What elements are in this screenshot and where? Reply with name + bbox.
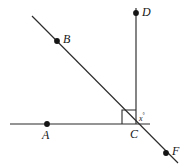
right-angle-marker <box>122 110 136 124</box>
point-label-C: C <box>130 128 138 140</box>
point-label-A: A <box>42 129 49 141</box>
geometry-figure: A B C D F x° <box>0 0 188 168</box>
diagonal-line <box>32 16 178 163</box>
point-label-B: B <box>63 33 70 45</box>
point-dot-F <box>163 150 169 156</box>
point-dot-D <box>133 10 139 16</box>
point-label-F: F <box>172 145 179 157</box>
figure-canvas <box>0 0 188 168</box>
point-label-D: D <box>142 6 151 18</box>
point-dot-B <box>54 38 60 44</box>
point-dot-A <box>44 121 50 127</box>
degree-symbol: ° <box>143 112 145 118</box>
angle-label-x: x° <box>139 113 145 123</box>
